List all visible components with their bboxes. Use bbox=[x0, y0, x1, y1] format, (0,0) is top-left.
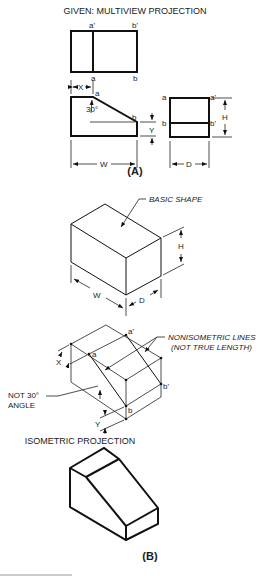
side-view-label-d: D bbox=[186, 160, 192, 169]
construction-label-a-prime: a' bbox=[128, 327, 134, 336]
top-view-label-a-prime: a' bbox=[89, 21, 95, 30]
side-view-label-a-prime: a' bbox=[210, 93, 216, 102]
top-view-label-b-prime: b' bbox=[132, 21, 138, 30]
side-view-label-b: b bbox=[162, 119, 167, 128]
construction-label-x: X bbox=[56, 358, 62, 367]
side-view-label-b-prime: b' bbox=[210, 119, 216, 128]
nonisometric-callout-line2: (NOT TRUE LENGTH) bbox=[171, 343, 252, 352]
nonisometric-callout-line1: NONISOMETRIC LINES bbox=[168, 333, 256, 342]
part-a-title: GIVEN: MULTIVIEW PROJECTION bbox=[64, 6, 207, 16]
part-b-caption: (B) bbox=[142, 550, 158, 562]
construction-label-b-prime: b' bbox=[163, 382, 169, 391]
basic-shape-callout: BASIC SHAPE bbox=[149, 195, 203, 204]
front-view-angle-label: 30° bbox=[86, 105, 98, 114]
front-view-label-a: a bbox=[95, 89, 100, 98]
top-view-label-a: a bbox=[91, 74, 96, 83]
basic-shape-label-w: W bbox=[93, 291, 101, 300]
front-view-label-x: X bbox=[78, 83, 84, 92]
side-view: a a' b b' H D bbox=[162, 93, 232, 169]
result-title: ISOMETRIC PROJECTION bbox=[25, 436, 136, 446]
construction-label-a: a bbox=[92, 350, 97, 359]
front-view-label-b: b bbox=[132, 113, 137, 122]
basic-shape-box: BASIC SHAPE H W D bbox=[71, 195, 203, 316]
angle-note-line1: NOT 30° bbox=[8, 391, 39, 400]
front-view-label-y: Y bbox=[149, 126, 155, 135]
front-view: X a b 30° Y W bbox=[71, 80, 156, 169]
basic-shape-label-d: D bbox=[139, 296, 145, 305]
side-view-label-a: a bbox=[162, 93, 167, 102]
part-a-caption: (A) bbox=[127, 165, 143, 177]
construction-label-b: b bbox=[128, 406, 133, 415]
front-view-label-w: W bbox=[100, 160, 108, 169]
basic-shape-label-h: H bbox=[178, 242, 184, 251]
top-view: a' b' a b bbox=[71, 21, 138, 83]
construction-box: a' a b' b NONISOMETRIC LINES (NOT TRUE L… bbox=[8, 325, 256, 434]
side-view-label-h: H bbox=[222, 113, 228, 122]
angle-note-line2: ANGLE bbox=[8, 401, 35, 410]
isometric-drawing-figure: GIVEN: MULTIVIEW PROJECTION a' b' a b X … bbox=[0, 0, 271, 576]
construction-label-y: Y bbox=[95, 420, 101, 429]
top-view-label-b: b bbox=[133, 74, 138, 83]
final-isometric-shape bbox=[70, 448, 158, 540]
